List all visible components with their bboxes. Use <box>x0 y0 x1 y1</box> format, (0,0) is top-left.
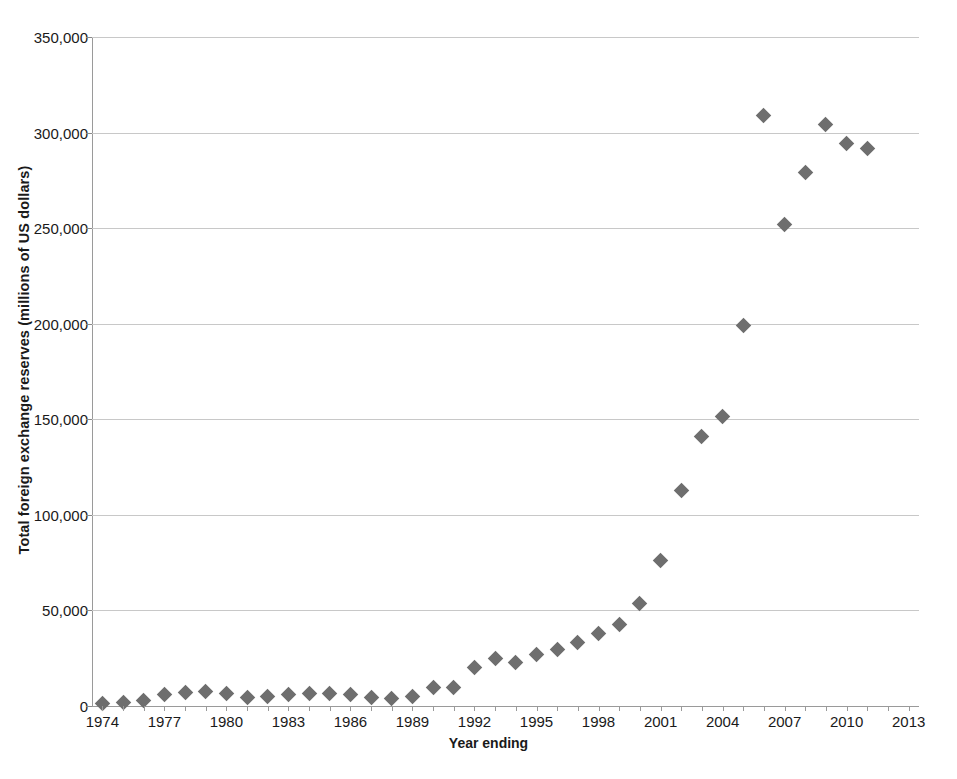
y-tick-label: 350,000 <box>4 29 88 46</box>
x-tick-label: 1986 <box>320 713 380 730</box>
x-tick-label: 2007 <box>755 713 815 730</box>
data-point <box>177 685 193 701</box>
data-point <box>384 691 400 707</box>
x-tick-mark <box>144 706 145 711</box>
x-tick-mark <box>268 706 269 711</box>
x-tick-label: 1998 <box>569 713 629 730</box>
x-tick-mark <box>102 706 103 711</box>
data-point <box>446 680 462 696</box>
x-tick-mark <box>661 706 662 711</box>
x-axis-title-text: Year ending <box>449 735 528 751</box>
data-point <box>839 135 855 151</box>
data-point <box>487 650 503 666</box>
x-tick-label: 1974 <box>72 713 132 730</box>
data-point <box>735 318 751 334</box>
data-point <box>363 690 379 706</box>
gridline <box>92 706 919 707</box>
data-point <box>549 642 565 658</box>
y-tick-label: 250,000 <box>4 220 88 237</box>
x-tick-mark <box>826 706 827 711</box>
x-tick-mark <box>412 706 413 711</box>
x-tick-mark <box>309 706 310 711</box>
x-tick-label: 2001 <box>631 713 691 730</box>
data-point <box>467 660 483 676</box>
data-point <box>219 686 235 702</box>
x-tick-label: 1983 <box>258 713 318 730</box>
x-tick-mark <box>454 706 455 711</box>
x-tick-label: 1989 <box>382 713 442 730</box>
x-tick-mark <box>640 706 641 711</box>
x-tick-mark <box>578 706 579 711</box>
data-point <box>239 690 255 706</box>
x-tick-mark <box>164 706 165 711</box>
gridline <box>92 419 919 420</box>
data-point <box>198 683 214 699</box>
y-tick-label: 200,000 <box>4 315 88 332</box>
x-tick-mark <box>392 706 393 711</box>
data-point <box>591 626 607 642</box>
x-tick-mark <box>785 706 786 711</box>
x-tick-label: 2004 <box>693 713 753 730</box>
y-axis-ticks: 050,000100,000150,000200,000250,000300,0… <box>0 0 88 779</box>
x-tick-mark <box>226 706 227 711</box>
x-tick-label: 2013 <box>879 713 939 730</box>
x-tick-mark <box>330 706 331 711</box>
x-tick-mark <box>474 706 475 711</box>
data-point <box>860 141 876 157</box>
x-tick-mark <box>599 706 600 711</box>
data-point <box>529 647 545 663</box>
data-point <box>756 108 772 124</box>
x-tick-mark <box>867 706 868 711</box>
data-point <box>343 687 359 703</box>
gridline <box>92 610 919 611</box>
x-tick-mark <box>123 706 124 711</box>
x-tick-mark <box>516 706 517 711</box>
gridline <box>92 133 919 134</box>
chart-container: Total foreign exchange reserves (million… <box>0 0 957 779</box>
data-point <box>611 617 627 633</box>
x-tick-mark <box>371 706 372 711</box>
data-point <box>653 553 669 569</box>
x-tick-label: 1980 <box>196 713 256 730</box>
data-point <box>818 117 834 133</box>
x-tick-mark <box>537 706 538 711</box>
x-tick-mark <box>288 706 289 711</box>
data-point <box>632 596 648 612</box>
data-point <box>673 483 689 499</box>
data-point <box>798 165 814 181</box>
x-tick-mark <box>247 706 248 711</box>
x-tick-mark <box>764 706 765 711</box>
data-point <box>281 687 297 703</box>
x-tick-mark <box>847 706 848 711</box>
x-tick-label: 1995 <box>507 713 567 730</box>
data-point <box>425 680 441 696</box>
x-tick-mark <box>185 706 186 711</box>
data-point <box>570 635 586 651</box>
data-point <box>715 409 731 425</box>
y-tick-label: 150,000 <box>4 411 88 428</box>
x-tick-mark <box>495 706 496 711</box>
data-point <box>777 217 793 233</box>
data-point <box>405 688 421 704</box>
gridline <box>92 324 919 325</box>
x-tick-mark <box>350 706 351 711</box>
x-tick-label: 1977 <box>134 713 194 730</box>
y-tick-label: 50,000 <box>4 602 88 619</box>
x-tick-label: 1992 <box>444 713 504 730</box>
data-point <box>508 655 524 671</box>
x-tick-mark <box>743 706 744 711</box>
x-tick-mark <box>619 706 620 711</box>
y-tick-label: 0 <box>4 698 88 715</box>
x-tick-mark <box>702 706 703 711</box>
x-tick-label: 2010 <box>817 713 877 730</box>
data-point <box>157 687 173 703</box>
gridline <box>92 228 919 229</box>
data-point <box>694 429 710 445</box>
data-point <box>260 688 276 704</box>
y-tick-label: 300,000 <box>4 124 88 141</box>
x-tick-mark <box>557 706 558 711</box>
gridline <box>92 37 919 38</box>
x-tick-mark <box>206 706 207 711</box>
plot-area <box>92 37 919 706</box>
y-tick-label: 100,000 <box>4 506 88 523</box>
